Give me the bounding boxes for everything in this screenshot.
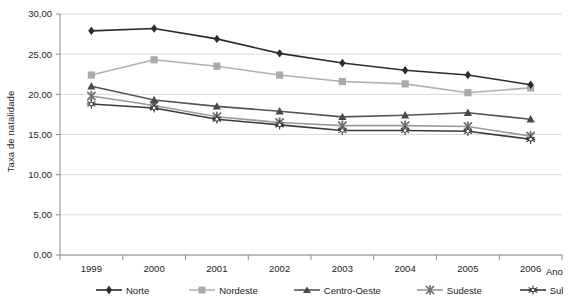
data-point-marker bbox=[402, 66, 408, 74]
x-tick-label: 2002 bbox=[269, 263, 290, 274]
data-point-marker bbox=[338, 126, 347, 135]
legend-item-centro-oeste[interactable]: Centro-Oeste bbox=[294, 284, 381, 296]
x-tick-label: 2001 bbox=[206, 263, 227, 274]
data-point-marker bbox=[401, 126, 410, 135]
legend-item-sudeste[interactable]: Sudeste bbox=[417, 284, 482, 296]
x-tick-label: 2004 bbox=[395, 263, 416, 274]
legend-item-nordeste[interactable]: Nordeste bbox=[189, 284, 258, 296]
data-point-marker bbox=[87, 99, 96, 108]
x-tick-label: 2005 bbox=[457, 263, 478, 274]
x-tick-label: 2000 bbox=[144, 263, 165, 274]
data-point-marker bbox=[213, 63, 220, 70]
y-tick-label: 15,00 bbox=[28, 129, 52, 140]
y-tick-label: 10,00 bbox=[28, 169, 52, 180]
legend-marker-triangle-icon bbox=[294, 284, 320, 296]
data-point-marker bbox=[465, 71, 471, 79]
x-axis-title: Ano bbox=[546, 266, 563, 277]
chart-legend: Norte Nordeste Centro-Oeste bbox=[60, 281, 540, 299]
legend-item-sul[interactable]: Sul bbox=[520, 284, 564, 296]
data-point-marker bbox=[88, 27, 94, 35]
y-tick-label: 5,00 bbox=[34, 209, 53, 220]
data-point-marker bbox=[88, 71, 95, 78]
legend-label-sul: Sul bbox=[550, 285, 564, 296]
data-point-marker bbox=[214, 35, 220, 43]
legend-label-nordeste: Nordeste bbox=[219, 285, 258, 296]
legend-marker-square-icon bbox=[189, 284, 215, 296]
data-point-marker bbox=[276, 49, 282, 57]
legend-marker-star-outline-icon bbox=[520, 284, 546, 296]
legend-label-sudeste: Sudeste bbox=[447, 285, 482, 296]
data-point-marker bbox=[339, 78, 346, 85]
legend-marker-diamond-icon bbox=[96, 284, 122, 296]
chart-plot-area: 0,005,0010,0015,0020,0025,0030,001999200… bbox=[0, 0, 574, 304]
legend-item-norte[interactable]: Norte bbox=[96, 284, 149, 296]
data-point-marker bbox=[402, 80, 409, 87]
y-tick-label: 0,00 bbox=[34, 249, 53, 260]
data-point-marker bbox=[276, 71, 283, 78]
x-tick-label: 2003 bbox=[332, 263, 353, 274]
data-point-marker bbox=[339, 59, 345, 67]
y-tick-label: 25,00 bbox=[28, 49, 52, 60]
data-point-marker bbox=[151, 24, 157, 32]
x-tick-label: 2006 bbox=[520, 263, 541, 274]
data-point-marker bbox=[464, 89, 471, 96]
series-line bbox=[91, 60, 530, 93]
y-tick-label: 30,00 bbox=[28, 8, 52, 19]
y-tick-label: 20,00 bbox=[28, 89, 52, 100]
series-centro-oeste bbox=[87, 82, 534, 122]
line-chart: Taxa de natalidade 0,005,0010,0015,0020,… bbox=[0, 0, 574, 304]
legend-label-centro-oeste: Centro-Oeste bbox=[324, 285, 381, 296]
data-point-marker bbox=[87, 82, 95, 89]
x-tick-label: 1999 bbox=[81, 263, 102, 274]
data-point-marker bbox=[151, 56, 158, 63]
legend-label-norte: Norte bbox=[126, 285, 149, 296]
legend-marker-starx-icon bbox=[417, 284, 443, 296]
